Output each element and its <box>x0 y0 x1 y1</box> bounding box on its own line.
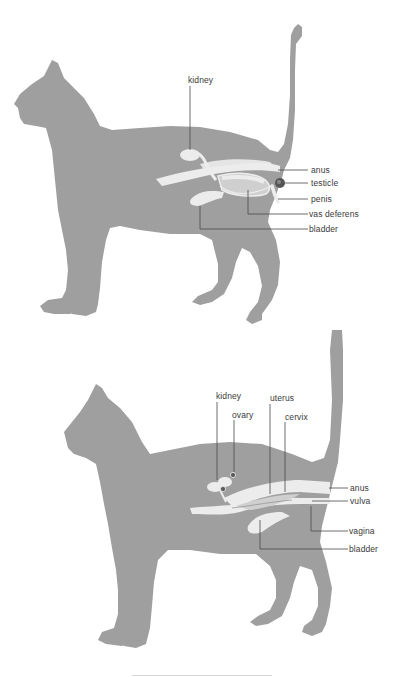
label-cervix: cervix <box>285 413 308 422</box>
label-vagina: vagina <box>349 527 375 536</box>
label-kidney: kidney <box>188 76 213 85</box>
female-cat-diagram: kidney ovary uterus cervix anus vulva va… <box>0 330 404 677</box>
label-penis: penis <box>311 195 332 204</box>
label-ovary: ovary <box>232 411 253 420</box>
label-vas-deferens: vas deferens <box>309 210 359 219</box>
bottom-divider <box>132 675 272 676</box>
male-cat-silhouette <box>0 0 404 340</box>
label-vulva: vulva <box>350 497 370 506</box>
label-anus: anus <box>350 484 369 493</box>
label-testicle: testicle <box>311 179 338 188</box>
label-anus: anus <box>311 166 330 175</box>
label-bladder: bladder <box>309 225 338 234</box>
label-bladder: bladder <box>349 545 378 554</box>
label-kidney: kidney <box>216 392 241 401</box>
label-uterus: uterus <box>270 394 294 403</box>
female-cat-silhouette <box>0 330 404 677</box>
male-cat-diagram: kidney anus testicle penis vas deferens … <box>0 0 404 340</box>
